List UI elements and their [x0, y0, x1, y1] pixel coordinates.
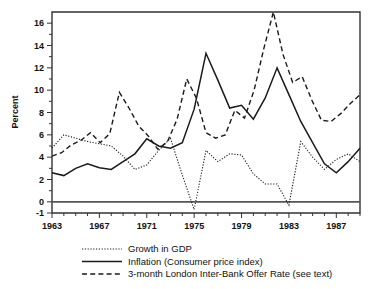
x-tick-label: 1963 [42, 221, 62, 231]
y-tick-label: 12 [34, 63, 44, 73]
legend-label: 3-month London Inter-Bank Offer Rate (se… [128, 268, 332, 279]
legend-label: Growth in GDP [128, 243, 192, 254]
x-tick-label: 1967 [89, 221, 109, 231]
x-tick-label: 1987 [326, 221, 346, 231]
y-axis-ticks: -10246810121416 [34, 18, 52, 218]
y-tick-label: 4 [39, 152, 44, 162]
y-tick-label: 16 [34, 18, 44, 28]
x-axis-ticks: 1963196719711975197919831987 [42, 213, 360, 231]
y-tick-label: 2 [39, 175, 44, 185]
chart-axes [52, 12, 360, 213]
x-tick-label: 1975 [184, 221, 204, 231]
series-line-inflation [52, 53, 360, 175]
y-tick-label: 14 [34, 41, 44, 51]
y-tick-label: -1 [36, 208, 44, 218]
chart-figure: Percent -10246810121416 1963196719711975… [0, 0, 380, 289]
line-chart: Percent -10246810121416 1963196719711975… [0, 0, 380, 289]
y-tick-label: 0 [39, 197, 44, 207]
series-line-libor [52, 12, 360, 156]
y-tick-label: 6 [39, 130, 44, 140]
y-tick-label: 8 [39, 108, 44, 118]
x-tick-label: 1983 [279, 221, 299, 231]
y-axis-title: Percent [10, 95, 20, 128]
x-tick-label: 1979 [232, 221, 252, 231]
chart-series-group [52, 12, 360, 210]
chart-legend: Growth in GDPInflation (Consumer price i… [82, 243, 332, 279]
x-tick-label: 1971 [137, 221, 157, 231]
y-tick-label: 10 [34, 85, 44, 95]
plot-frame [52, 12, 360, 213]
legend-label: Inflation (Consumer price index) [128, 256, 263, 267]
